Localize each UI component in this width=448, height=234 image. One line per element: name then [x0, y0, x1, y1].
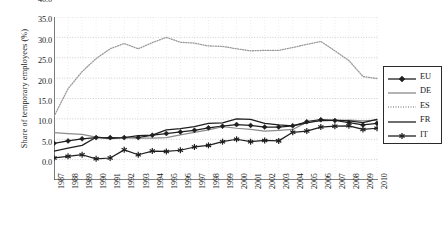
y-tick-label: 10.0: [22, 117, 52, 126]
x-tick-label: 1999: [226, 173, 235, 189]
chart-legend: EUDEESFRIT: [383, 66, 442, 144]
marker-diamond: [150, 133, 155, 138]
legend-swatch-eu: [387, 71, 417, 83]
legend-label: IT: [420, 130, 428, 139]
legend-swatch-de: [387, 85, 417, 97]
x-tick-label: 1992: [127, 173, 136, 189]
legend-label: ES: [420, 101, 430, 110]
x-tick-label: 2008: [352, 173, 361, 189]
y-tick-label: 0.0: [22, 158, 52, 167]
legend-swatch-es: [387, 99, 417, 111]
marker-diamond: [375, 121, 379, 126]
x-tick-label: 1990: [99, 173, 108, 189]
marker-diamond: [220, 124, 225, 129]
x-tick-label: 2006: [324, 173, 333, 189]
marker-diamond: [164, 131, 169, 136]
x-tick-label: 1995: [170, 173, 179, 189]
marker-diamond: [94, 135, 99, 140]
series-line-it: [54, 126, 377, 159]
x-tick-label: 1994: [156, 173, 165, 189]
legend-item-es[interactable]: ES: [387, 99, 441, 112]
series-line-es: [54, 37, 377, 116]
legend-swatch-it: [387, 128, 417, 140]
x-tick-label: 2010: [380, 173, 389, 189]
marker-diamond: [80, 136, 85, 141]
x-tick-label: 2000: [240, 173, 249, 189]
y-tick-label: 25.0: [22, 56, 52, 65]
x-tick-label: 1991: [113, 173, 122, 189]
x-axis-tick-labels: 1987198819891990199119921993199419951996…: [54, 183, 378, 231]
y-axis-tick-labels: 0.05.010.015.020.025.030.035.040.0: [16, 0, 52, 200]
marker-diamond: [54, 141, 57, 146]
legend-label: DE: [420, 86, 431, 95]
marker-diamond: [178, 129, 183, 134]
marker-diamond: [248, 123, 253, 128]
y-tick-label: 20.0: [22, 77, 52, 86]
x-tick-label: 1989: [85, 173, 94, 189]
x-tick-label: 1993: [142, 173, 151, 189]
x-tick-label: 2004: [296, 173, 305, 189]
x-tick-label: 2002: [268, 173, 277, 189]
x-tick-label: 1988: [71, 173, 80, 189]
x-tick-label: 2009: [366, 173, 375, 189]
legend-item-fr[interactable]: FR: [387, 113, 441, 126]
legend-label: FR: [420, 115, 430, 124]
x-tick-label: 1996: [184, 173, 193, 189]
y-tick-label: 5.0: [22, 138, 52, 147]
chart-figure: Share of temporary employees (%) 0.05.01…: [0, 0, 448, 234]
y-tick-label: 35.0: [22, 15, 52, 24]
x-tick-label: 2005: [310, 173, 319, 189]
series-line-fr: [54, 119, 377, 151]
y-tick-label: 40.0: [22, 0, 52, 4]
x-tick-label: 2007: [338, 173, 347, 189]
legend-item-it[interactable]: IT: [387, 128, 441, 141]
plot-area: [54, 17, 378, 180]
marker-diamond: [234, 122, 239, 127]
x-tick-label: 1997: [198, 173, 207, 189]
x-tick-label: 1987: [57, 173, 66, 189]
marker-diamond: [262, 125, 267, 130]
legend-item-eu[interactable]: EU: [387, 70, 441, 83]
x-tick-label: 1998: [212, 173, 221, 189]
legend-swatch-fr: [387, 114, 417, 126]
legend-marker-diamond: [399, 76, 405, 82]
marker-diamond: [290, 123, 295, 128]
y-tick-label: 15.0: [22, 97, 52, 106]
x-tick-label: 2003: [282, 173, 291, 189]
legend-label: EU: [420, 72, 431, 81]
chart-svg: [54, 17, 378, 180]
x-tick-label: 2001: [254, 173, 263, 189]
y-tick-label: 30.0: [22, 36, 52, 45]
legend-item-de[interactable]: DE: [387, 84, 441, 97]
